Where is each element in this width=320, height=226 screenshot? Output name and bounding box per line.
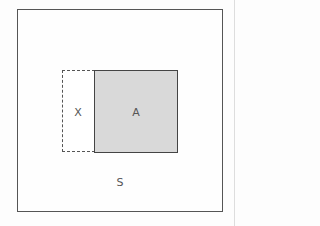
page-edge <box>234 0 235 226</box>
label-a: A <box>132 106 140 119</box>
label-s: S <box>117 176 124 189</box>
label-x: X <box>74 106 82 119</box>
